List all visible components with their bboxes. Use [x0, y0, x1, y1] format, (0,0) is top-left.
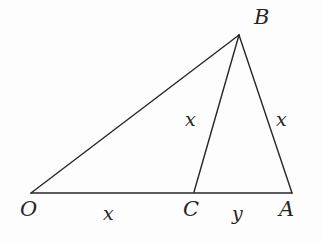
side-length-label-ca: y	[232, 204, 243, 223]
triangle-diagram-canvas	[0, 0, 322, 242]
vertex-label-C: C	[183, 199, 199, 220]
vertex-label-B: B	[254, 7, 269, 28]
vertex-label-A: A	[279, 199, 294, 220]
segment-O-B	[31, 35, 239, 193]
geometry-figure: B O C A x x x y	[0, 0, 322, 242]
vertex-label-O: O	[20, 199, 37, 220]
triangle-lines	[31, 35, 292, 193]
side-length-label-oc: x	[103, 204, 114, 223]
side-length-label-bc: x	[185, 110, 196, 129]
side-length-label-ab: x	[276, 110, 287, 129]
segment-B-C-cevian	[194, 35, 239, 192]
